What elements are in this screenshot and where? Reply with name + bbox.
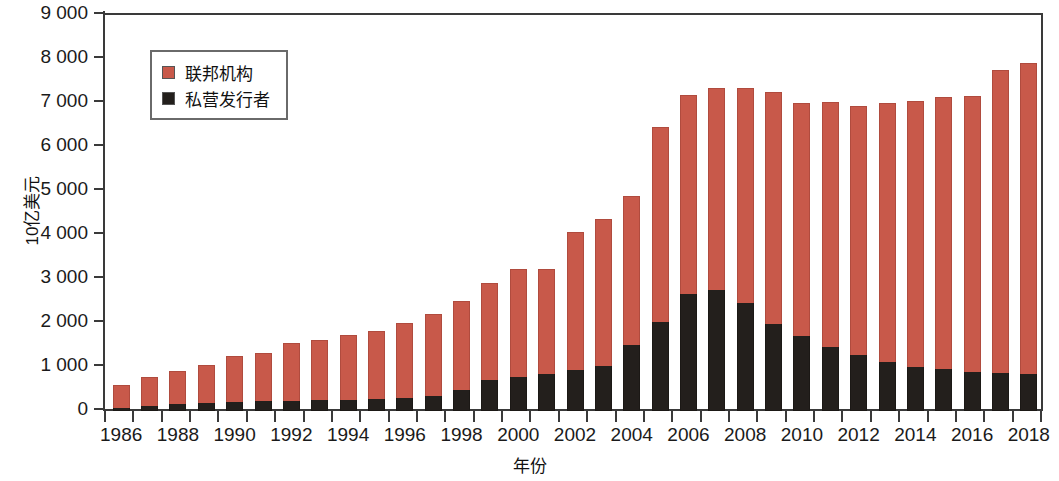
x-axis-tick-label: 1990 [213,424,255,446]
stacked-bar [680,95,697,411]
x-axis-tick-label: 1994 [327,424,369,446]
stacked-bar [510,269,527,411]
y-axis-tick-mark [94,408,103,410]
bar-segment-private [311,400,328,411]
bar-segment-federal [992,70,1009,373]
red-square-swatch-icon [162,66,175,79]
x-axis-tick-label: 2008 [724,424,766,446]
bar-segment-private [595,366,612,411]
x-axis-tick-mark [983,411,985,422]
bar-segment-federal [113,385,130,409]
bar-segment-federal [737,88,754,303]
x-axis-tick-mark [388,411,390,422]
bar-segment-private [907,367,924,411]
bar-segment-federal [680,95,697,294]
bar-segment-federal [850,106,867,355]
chart-legend: 联邦机构 私营发行者 [150,50,288,120]
y-axis-tick-labels: 01 0002 0003 0004 0005 0006 0007 0008 00… [10,0,88,481]
bar-segment-private [623,345,640,411]
bar-segment-federal [453,301,470,389]
y-axis-tick-label: 9 000 [10,2,88,24]
x-axis-tick-mark [501,411,503,422]
x-axis-tick-mark [104,411,106,422]
stacked-bar [1020,63,1037,411]
x-axis-tick-mark [303,411,305,422]
bar-segment-private [708,290,725,411]
x-axis-tick-label: 2016 [951,424,993,446]
x-axis-tick-mark [813,411,815,422]
x-axis-tick-mark [728,411,730,422]
stacked-bar [935,97,952,411]
x-axis-tick-label: 1986 [100,424,142,446]
stacked-bar [992,70,1009,411]
x-axis-tick-mark [161,411,163,422]
chart-figure: 10亿美元 01 0002 0003 0004 0005 0006 0007 0… [0,0,1059,481]
bar-segment-private [198,403,215,411]
x-axis-tick-label: 2012 [837,424,879,446]
bar-segment-federal [283,343,300,401]
stacked-bar [793,103,810,411]
bar-segment-private [169,404,186,411]
x-axis-tick-mark [671,411,673,422]
y-axis-tick-mark [94,188,103,190]
x-axis-tick-label: 2006 [667,424,709,446]
bar-segment-private [1020,374,1037,411]
stacked-bar [595,219,612,411]
bar-segment-private [141,406,158,411]
stacked-bar [708,88,725,411]
stacked-bar [879,103,896,411]
bar-segment-federal [708,88,725,290]
y-axis-tick-mark [94,12,103,14]
bar-segment-private [538,374,555,411]
y-axis-tick-label: 3 000 [10,266,88,288]
stacked-bar [652,127,669,411]
bar-segment-federal [311,340,328,400]
bar-segment-private [850,355,867,411]
x-axis-tick-mark [558,411,560,422]
x-axis-tick-mark [1040,411,1042,422]
x-axis-tick-label: 2000 [497,424,539,446]
bar-segment-private [992,373,1009,411]
bar-segment-private [425,396,442,411]
bar-segment-federal [538,269,555,374]
x-axis-tick-mark [586,411,588,422]
stacked-bar [226,356,243,411]
x-axis-tick-label: 2002 [554,424,596,446]
stacked-bar [311,340,328,411]
bar-segment-private [113,408,130,411]
x-axis-tick-label: 2004 [611,424,653,446]
bar-segment-private [340,400,357,411]
stacked-bar [481,283,498,411]
x-axis-tick-mark [529,411,531,422]
bar-segment-private [226,402,243,411]
x-axis-title: 年份 [0,452,1059,477]
bar-segment-private [255,401,272,411]
y-axis-tick-mark [94,100,103,102]
y-axis-tick-mark [94,232,103,234]
stacked-bar [822,102,839,411]
x-axis-tick-label: 1992 [270,424,312,446]
legend-item-label: 联邦机构 [185,60,253,85]
x-axis-tick-label: 1998 [440,424,482,446]
bar-segment-federal [652,127,669,321]
bar-segment-private [964,372,981,411]
y-axis-tick-label: 5 000 [10,178,88,200]
x-axis-tick-mark [955,411,957,422]
x-axis-tick-mark [444,411,446,422]
stacked-bar [907,101,924,411]
stacked-bar [623,196,640,411]
bar-segment-federal [567,232,584,370]
x-axis-tick-mark [416,411,418,422]
bar-segment-private [765,324,782,411]
bar-segment-federal [510,269,527,377]
bar-segment-federal [255,353,272,401]
bar-segment-private [680,294,697,411]
x-axis-tick-mark [927,411,929,422]
bar-segment-federal [1020,63,1037,374]
x-axis-tick-mark [217,411,219,422]
y-axis-tick-label: 7 000 [10,90,88,112]
stacked-bar [396,323,413,411]
bar-segment-federal [595,219,612,366]
stacked-bar [198,365,215,411]
bar-segment-private [283,401,300,411]
